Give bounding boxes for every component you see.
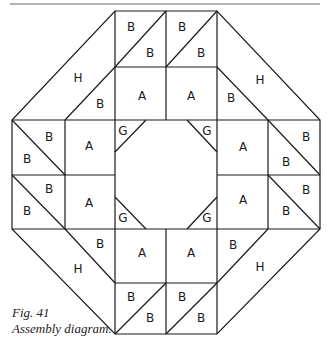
piece-label-a: A [85,139,94,153]
piece-label-b: B [282,155,290,169]
piece-label-b: B [282,204,290,218]
piece-label-b: B [23,204,31,218]
piece-label-g: G [118,211,127,225]
b-diagonal [115,283,166,334]
piece-label-b: B [127,290,135,304]
b-diagonal [268,120,320,175]
piece-label-a: A [85,196,94,210]
b-diagonal [115,11,166,67]
piece-label-b: B [146,46,154,60]
piece-label-a: A [187,89,196,103]
piece-label-b: B [227,91,235,105]
piece-label-b: B [197,46,205,60]
piece-label-b: B [23,152,31,166]
b-diagonal [166,283,217,334]
b-diagonal [166,11,217,67]
piece-label-b: B [96,237,104,251]
piece-label-g: G [202,211,211,225]
b-diagonal [268,175,320,229]
piece-label-h: H [255,260,264,274]
piece-label-b: B [45,182,53,196]
piece-label-a: A [239,140,248,154]
figure-title: Assembly diagram. [12,322,112,336]
h-inner-edge [217,229,268,283]
piece-label-b: B [127,20,135,34]
piece-label-b: B [178,20,186,34]
piece-label-g: G [118,124,127,138]
piece-label-b: B [229,238,237,252]
piece-label-a: A [138,89,147,103]
piece-label-b: B [45,130,53,144]
figure-number: Fig. 41 [12,306,50,320]
piece-label-b: B [146,311,154,325]
piece-label-h: H [255,73,264,87]
piece-label-a: A [239,193,248,207]
piece-label-b: B [178,290,186,304]
piece-label-b: B [96,97,104,111]
piece-label-a: A [187,246,196,260]
piece-label-h: H [73,71,82,85]
b-diagonal [12,120,65,175]
b-diagonal [12,175,65,229]
piece-label-g: G [202,124,211,138]
piece-label-b: B [197,311,205,325]
assembly-diagram: BBBBHBAABHBBAGGABBBBAGGABBHBAABHBBBB [0,0,328,345]
piece-label-h: H [73,262,82,276]
piece-label-a: A [138,246,147,260]
piece-label-b: B [302,130,310,144]
piece-label-b: B [302,183,310,197]
